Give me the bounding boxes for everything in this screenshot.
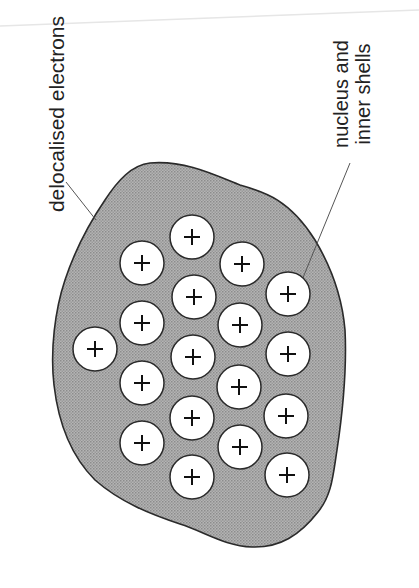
- positive-ion: [265, 453, 309, 497]
- positive-ion: [172, 275, 216, 319]
- nucleus-label-line1: nucleus and: [330, 40, 352, 148]
- electrons-leader-line: [66, 182, 96, 220]
- positive-ion: [170, 396, 214, 440]
- positive-ion: [120, 301, 164, 345]
- positive-ion: [218, 425, 262, 469]
- positive-ion: [217, 365, 261, 409]
- positive-ion: [73, 327, 117, 371]
- nucleus-label-line2: inner shells: [352, 43, 374, 144]
- positive-ion: [120, 361, 164, 405]
- positive-ion: [120, 241, 164, 285]
- delocalised-electrons-label: delocalised electrons: [45, 16, 68, 212]
- positive-ion: [266, 272, 310, 316]
- positive-ion: [171, 335, 215, 379]
- positive-ion: [264, 394, 308, 438]
- positive-ion: [218, 303, 262, 347]
- positive-ion: [120, 421, 164, 465]
- positive-ion: [220, 242, 264, 286]
- positive-ion: [170, 455, 214, 499]
- positive-ion: [170, 215, 214, 259]
- metallic-bonding-diagram: delocalised electrons nucleus and inner …: [0, 0, 419, 588]
- positive-ion: [266, 332, 310, 376]
